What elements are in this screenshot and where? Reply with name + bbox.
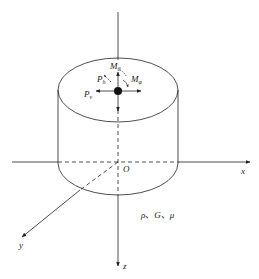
ph-label: Ph (96, 74, 106, 85)
x-axis-label: x (240, 166, 245, 176)
material-label: ρ、G、μ (140, 210, 175, 220)
m-phi-arrow (123, 80, 128, 87)
m-theta-label: Mθ (109, 61, 121, 72)
origin-label: O (123, 164, 130, 174)
y-axis-arrow (22, 190, 80, 237)
z-axis-label: z (122, 261, 127, 271)
cylinder-diagram: Mθ Ph Mφ Pv O x y z ρ、G、μ (0, 0, 259, 279)
y-axis-inside-dashed (80, 162, 118, 190)
y-axis-label: y (18, 240, 23, 250)
m-phi-label: Mφ (130, 74, 143, 85)
load-point (114, 87, 122, 95)
pv-label: Pv (83, 89, 93, 100)
m-theta-arrow (120, 70, 126, 76)
